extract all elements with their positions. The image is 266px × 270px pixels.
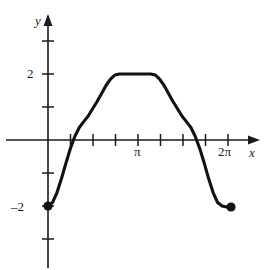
- y-axis-label: y: [35, 14, 41, 27]
- endpoint-dot-left: [43, 201, 52, 210]
- function-graph: [0, 0, 266, 270]
- y-axis-arrow-icon: [44, 14, 53, 26]
- x-axis-arrow-icon: [248, 136, 260, 145]
- endpoint-dot-right: [226, 202, 235, 211]
- x-tick-label-pi: π: [134, 145, 141, 158]
- y-tick-label-2: 2: [27, 67, 34, 80]
- x-tick-label-2pi: 2π: [218, 145, 231, 158]
- x-axis-label: x: [249, 146, 255, 159]
- y-tick-label-neg2: –2: [11, 200, 24, 213]
